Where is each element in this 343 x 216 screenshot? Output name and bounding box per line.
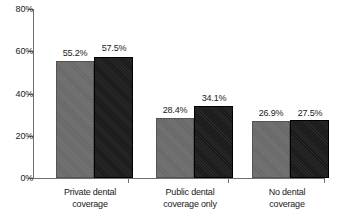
bar-private-series-2 bbox=[94, 57, 133, 179]
bar-public-series-1 bbox=[156, 118, 194, 178]
bar-value-label: 27.5% bbox=[282, 109, 338, 118]
category-label-line: No dental bbox=[235, 187, 339, 199]
bar-private-series-1 bbox=[56, 61, 94, 178]
bar-chart: 80% 60% 40% 20% 0% 55.2% 57.5% 28.4% 34.… bbox=[0, 0, 343, 216]
category-label-line: coverage only bbox=[138, 199, 242, 211]
y-tick-40: 40% bbox=[0, 94, 33, 95]
x-tick-mark bbox=[324, 178, 325, 183]
bar-public-series-2 bbox=[194, 106, 233, 178]
category-label-public: Public dental coverage only bbox=[138, 187, 242, 210]
y-tick-label: 40% bbox=[6, 90, 33, 99]
y-tick-label: 60% bbox=[6, 47, 33, 56]
bar-value-label: 28.4% bbox=[147, 106, 203, 115]
bar-value-label: 57.5% bbox=[86, 44, 142, 53]
y-tick-20: 20% bbox=[0, 136, 33, 137]
category-label-none: No dental coverage bbox=[235, 187, 339, 210]
y-tick-label: 0% bbox=[6, 174, 33, 183]
x-axis-line bbox=[33, 178, 325, 179]
bar-value-label: 34.1% bbox=[186, 94, 242, 103]
bar-none-series-2 bbox=[290, 120, 329, 178]
y-tick-label: 20% bbox=[6, 132, 33, 141]
plot-area: 55.2% 57.5% 28.4% 34.1% 26.9% 27.5% bbox=[34, 9, 325, 178]
category-label-line: coverage bbox=[38, 199, 142, 211]
y-tick-80: 80% bbox=[0, 9, 33, 10]
y-tick-60: 60% bbox=[0, 51, 33, 52]
x-tick-mark bbox=[128, 178, 129, 183]
category-label-line: Public dental bbox=[138, 187, 242, 199]
category-label-line: Private dental bbox=[38, 187, 142, 199]
y-tick-0: 0% bbox=[0, 178, 33, 179]
y-tick-label: 80% bbox=[6, 5, 33, 14]
category-label-private: Private dental coverage bbox=[38, 187, 142, 210]
category-label-line: coverage bbox=[235, 199, 339, 211]
x-tick-mark bbox=[228, 178, 229, 183]
bar-none-series-1 bbox=[252, 121, 290, 178]
